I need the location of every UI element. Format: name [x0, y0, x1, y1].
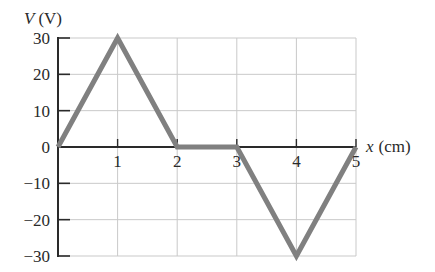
y-tick-label: −30	[23, 247, 50, 266]
x-tick-label: 3	[233, 152, 242, 171]
y-tick-label: 20	[33, 65, 50, 84]
x-tick-label: 1	[113, 152, 122, 171]
x-axis-label: x(cm)	[365, 137, 411, 156]
x-tick-label: 2	[173, 152, 182, 171]
y-tick-label: −10	[23, 174, 50, 193]
y-tick-label: 10	[33, 102, 50, 121]
voltage-position-chart: 3020100−10−20−3012345 V(V) x(cm)	[0, 0, 435, 272]
x-tick-label: 5	[352, 152, 361, 171]
y-tick-label: −20	[23, 211, 50, 230]
y-tick-label: 30	[33, 29, 50, 48]
x-tick-label: 4	[292, 152, 301, 171]
y-tick-label: 0	[42, 138, 51, 157]
y-axis-label: V(V)	[24, 9, 62, 28]
